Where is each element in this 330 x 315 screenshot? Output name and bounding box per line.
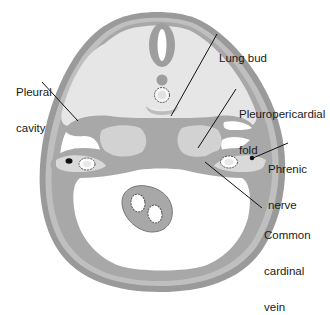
common-cardinal-vein-left: [79, 158, 95, 170]
label-lung-bud: Lung bud: [219, 28, 267, 76]
label-common-cardinal-vein-line1: Common: [264, 229, 311, 241]
label-pleuropericardial-fold-line1: Pleuropericardial: [239, 108, 325, 120]
esophagus: [155, 88, 170, 103]
neural-tube: [149, 23, 175, 67]
label-pleural-cavity-line2: cavity: [16, 122, 52, 134]
label-common-cardinal-vein: Common cardinal vein: [264, 205, 311, 315]
label-pleural-cavity: Pleural cavity: [16, 62, 52, 146]
common-cardinal-vein-right: [221, 156, 238, 168]
label-common-cardinal-vein-line2: cardinal: [264, 265, 311, 277]
label-common-cardinal-vein-line3: vein: [264, 301, 311, 313]
notochord: [157, 75, 168, 86]
label-phrenic-nerve-line1: Phrenic: [268, 163, 307, 175]
label-lung-bud-line1: Lung bud: [219, 52, 267, 64]
phrenic-nerve-left: [66, 158, 73, 164]
label-pleural-cavity-line1: Pleural: [16, 86, 52, 98]
